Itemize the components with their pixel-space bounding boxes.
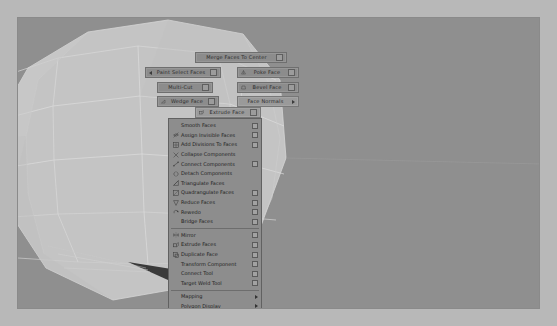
menu-item-rewedo[interactable]: Rewedo: [169, 207, 261, 217]
menu-item-icon-placeholder: [173, 303, 179, 309]
option-box-icon[interactable]: [210, 69, 217, 76]
menu-item-label: Mapping: [181, 294, 251, 299]
menu-item-label: Transform Component: [181, 262, 248, 267]
marking-menu-item-label: Bevel Face: [248, 85, 286, 90]
extrude-icon: [199, 110, 204, 115]
menu-item-reduce-faces[interactable]: Reduce Faces: [169, 198, 261, 208]
divide-icon: [173, 142, 179, 148]
marking-menu-item-extrude-face[interactable]: Extrude Face: [195, 107, 261, 118]
menu-item-label: Detach Components: [181, 171, 258, 176]
menu-item-assign-invisible[interactable]: Assign Invisible Faces: [169, 131, 261, 141]
option-box-icon[interactable]: [252, 200, 258, 206]
menu-item-label: Add Divisions To Faces: [181, 142, 248, 147]
menu-item-label: Mirror: [181, 233, 248, 238]
extrude-icon: [173, 242, 179, 248]
quad-icon: [173, 190, 179, 196]
menu-item-connect-tool[interactable]: Connect Tool: [169, 269, 261, 279]
marking-menu-item-poke-face[interactable]: Poke Face: [237, 67, 299, 78]
menu-item-label: Collapse Components: [181, 152, 258, 157]
wedge-icon: [161, 99, 166, 104]
option-box-icon[interactable]: [252, 252, 258, 258]
menu-item-transform-component[interactable]: Transform Component: [169, 259, 261, 269]
faces-context-menu[interactable]: Smooth FacesAssign Invisible FacesAdd Di…: [168, 118, 262, 309]
rewedo-icon: [173, 209, 179, 215]
menu-item-triangulate-faces[interactable]: Triangulate Faces: [169, 179, 261, 189]
marking-menu-item-bevel-face[interactable]: Bevel Face: [237, 82, 299, 93]
menu-item-label: Reduce Faces: [181, 200, 248, 205]
menu-separator: [171, 290, 259, 291]
option-box-icon[interactable]: [252, 209, 258, 215]
menu-item-extrude-faces[interactable]: Extrude Faces: [169, 240, 261, 250]
marking-menu-item-label: Poke Face: [248, 70, 286, 75]
menu-item-label: Connect Components: [181, 162, 248, 167]
option-box-icon[interactable]: [252, 190, 258, 196]
menu-item-icon-placeholder: [173, 294, 179, 300]
menu-separator: [171, 228, 259, 229]
menu-item-smooth-faces[interactable]: Smooth Faces: [169, 121, 261, 131]
marking-menu-item-label: Extrude Face: [206, 110, 248, 115]
invisible-icon: [173, 132, 179, 138]
connect-icon: [173, 161, 179, 167]
menu-item-icon-placeholder: [173, 261, 179, 267]
maya-window: Merge Faces To CenterPaint Select FacesP…: [0, 0, 557, 326]
marking-menu-item-paint-select-faces[interactable]: Paint Select Faces: [145, 67, 221, 78]
menu-item-icon-placeholder: [173, 219, 179, 225]
mirror-icon: [173, 232, 179, 238]
menu-item-bridge-faces[interactable]: Bridge Faces: [169, 217, 261, 227]
marking-menu-item-label: Merge Faces To Center: [199, 55, 274, 60]
option-box-icon[interactable]: [252, 261, 258, 267]
menu-item-label: Smooth Faces: [181, 123, 248, 128]
marking-menu-item-multi-cut[interactable]: Multi-Cut: [157, 82, 213, 93]
option-box-icon[interactable]: [288, 84, 295, 91]
option-box-icon[interactable]: [250, 109, 257, 116]
viewport-persp[interactable]: Merge Faces To CenterPaint Select FacesP…: [17, 17, 540, 309]
option-box-icon[interactable]: [252, 280, 258, 286]
menu-item-label: Rewedo: [181, 210, 248, 215]
menu-item-quadrangulate-faces[interactable]: Quadrangulate Faces: [169, 188, 261, 198]
menu-item-label: Bridge Faces: [181, 219, 248, 224]
marking-menu-item-label: Paint Select Faces: [154, 70, 208, 75]
marking-menu-item-face-normals[interactable]: Face Normals: [237, 96, 299, 107]
menu-item-duplicate-face[interactable]: Duplicate Face: [169, 250, 261, 260]
option-box-icon[interactable]: [252, 132, 258, 138]
option-box-icon[interactable]: [252, 242, 258, 248]
menu-item-label: Polygon Display: [181, 304, 251, 309]
menu-item-detach-components[interactable]: Detach Components: [169, 169, 261, 179]
menu-item-icon-placeholder: [173, 280, 179, 286]
menu-item-label: Quadrangulate Faces: [181, 190, 248, 195]
option-box-icon[interactable]: [252, 142, 258, 148]
menu-item-label: Triangulate Faces: [181, 181, 258, 186]
option-box-icon[interactable]: [252, 232, 258, 238]
option-box-icon[interactable]: [252, 219, 258, 225]
menu-item-add-divisions[interactable]: Add Divisions To Faces: [169, 140, 261, 150]
option-box-icon[interactable]: [202, 84, 209, 91]
option-box-icon[interactable]: [288, 69, 295, 76]
reduce-icon: [173, 200, 179, 206]
marking-menu-item-label: Wedge Face: [168, 99, 206, 104]
menu-item-icon-placeholder: [173, 123, 179, 129]
marking-menu-item-wedge-face[interactable]: Wedge Face: [157, 96, 219, 107]
bevel-icon: [241, 85, 246, 90]
menu-item-label: Duplicate Face: [181, 252, 248, 257]
option-box-icon[interactable]: [276, 54, 283, 61]
chevron-right-icon: [255, 304, 258, 308]
menu-item-collapse-components[interactable]: Collapse Components: [169, 150, 261, 160]
menu-item-polygon-display[interactable]: Polygon Display: [169, 302, 261, 309]
arrow-left-icon: [149, 71, 152, 75]
menu-item-label: Assign Invisible Faces: [181, 133, 248, 138]
menu-item-connect-components[interactable]: Connect Components: [169, 159, 261, 169]
marking-menu-item-merge-faces-to-center[interactable]: Merge Faces To Center: [195, 52, 287, 63]
dup-icon: [173, 252, 179, 258]
menu-item-target-weld-tool[interactable]: Target Weld Tool: [169, 279, 261, 289]
menu-item-mirror[interactable]: Mirror: [169, 231, 261, 241]
menu-item-mapping[interactable]: Mapping: [169, 292, 261, 302]
marking-menu-item-label: Multi-Cut: [161, 85, 200, 90]
option-box-icon[interactable]: [252, 271, 258, 277]
menu-item-label: Target Weld Tool: [181, 281, 248, 286]
menu-item-label: Connect Tool: [181, 271, 248, 276]
chevron-right-icon: [292, 100, 295, 104]
option-box-icon[interactable]: [208, 98, 215, 105]
detach-icon: [173, 171, 179, 177]
option-box-icon[interactable]: [252, 161, 258, 167]
option-box-icon[interactable]: [252, 123, 258, 129]
